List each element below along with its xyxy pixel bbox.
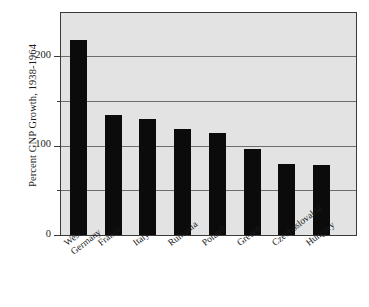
y-tick-label-100: 100: [8, 139, 51, 150]
y-tick-minor-50: [57, 190, 61, 191]
bar: [139, 119, 156, 235]
y-tick-major-100: [54, 146, 61, 147]
y-tick-minor-150: [57, 101, 61, 102]
y-tick-major-200: [54, 56, 61, 57]
bar: [174, 129, 191, 235]
y-tick-label-200: 200: [8, 50, 51, 61]
y-tick-major-0: [54, 235, 61, 236]
bar: [209, 133, 226, 235]
y-axis-title: Percent GNP Growth, 1938-1964: [27, 16, 38, 216]
bar: [105, 115, 122, 235]
plot-area: [60, 12, 357, 236]
gridline-150: [61, 101, 356, 102]
bar: [244, 149, 261, 235]
gridline-200: [61, 56, 356, 57]
bar: [70, 40, 87, 235]
bar-chart-figure: Percent GNP Growth, 1938-1964 0100200 We…: [0, 0, 369, 307]
y-tick-label-0: 0: [8, 229, 51, 240]
